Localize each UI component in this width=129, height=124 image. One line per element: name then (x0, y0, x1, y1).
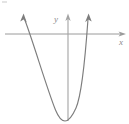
figure-canvas: y x (0, 0, 129, 124)
parabola-left-arrow-icon (20, 14, 27, 23)
parabola-figure: y x (0, 0, 129, 124)
y-axis-label: y (53, 14, 58, 24)
x-axis-label: x (118, 37, 123, 47)
